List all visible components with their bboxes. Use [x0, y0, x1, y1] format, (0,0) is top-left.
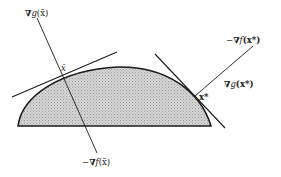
label-xbar: x̄ [61, 63, 66, 73]
label-neg-grad-f-xstar: −∇f(x*) [226, 35, 260, 45]
label-grad-g-xstar: ∇g(x*) [224, 79, 253, 89]
label-neg-grad-f-xbar: −∇f(x̄) [82, 157, 110, 167]
label-grad-g-xbar: ∇g(x̄) [25, 8, 48, 18]
optimization-diagram: ∇g(x̄) x̄ −∇f(x̄) −∇f(x*) ∇g(x*) x* [0, 0, 281, 177]
feasible-region [18, 67, 211, 126]
label-xstar: x* [199, 92, 209, 102]
